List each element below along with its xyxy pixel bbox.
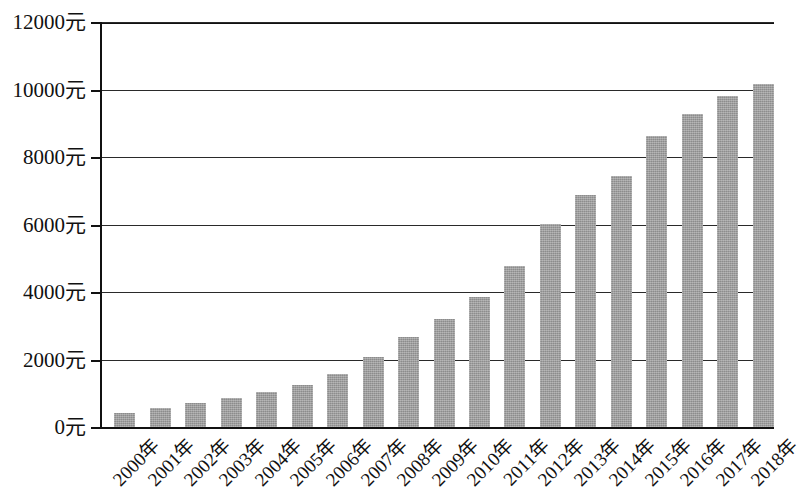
bar — [256, 392, 277, 427]
gridline — [100, 292, 774, 293]
bar — [434, 319, 455, 427]
y-axis-tick-label: 6000元 — [0, 215, 86, 236]
y-axis-tick — [91, 360, 100, 362]
bar — [611, 176, 632, 427]
bar — [540, 224, 561, 427]
bar — [504, 266, 525, 427]
bar — [469, 297, 490, 427]
bar — [398, 337, 419, 427]
y-axis-tick — [91, 292, 100, 294]
gridline — [100, 157, 774, 158]
y-axis-tick-label: 2000元 — [0, 350, 86, 371]
y-axis-tick-label: 4000元 — [0, 282, 86, 303]
y-axis-tick — [91, 225, 100, 227]
bar — [717, 96, 738, 427]
bar — [150, 408, 171, 427]
bar — [327, 374, 348, 427]
y-axis-tick-label: 12000元 — [0, 12, 86, 33]
y-axis-tick — [91, 157, 100, 159]
gridline — [100, 90, 774, 91]
bar — [575, 195, 596, 427]
y-axis-tick — [91, 90, 100, 92]
bar — [292, 385, 313, 427]
bar — [185, 403, 206, 427]
y-axis-tick-label: 8000元 — [0, 147, 86, 168]
gridline — [100, 225, 774, 226]
x-axis-labels: 2000年2001年2002年2003年2004年2005年2006年2007年… — [0, 430, 774, 504]
bar — [363, 357, 384, 427]
bar — [114, 413, 135, 427]
bar — [753, 84, 774, 427]
plot-area — [100, 22, 774, 427]
bar — [646, 136, 667, 427]
y-axis-tick — [91, 427, 100, 429]
bar — [221, 398, 242, 427]
bar — [682, 114, 703, 427]
gridline — [100, 22, 774, 23]
y-axis-tick-label: 10000元 — [0, 80, 86, 101]
y-axis-tick — [91, 22, 100, 24]
y-axis-line — [100, 22, 102, 429]
x-axis-line — [100, 427, 774, 429]
